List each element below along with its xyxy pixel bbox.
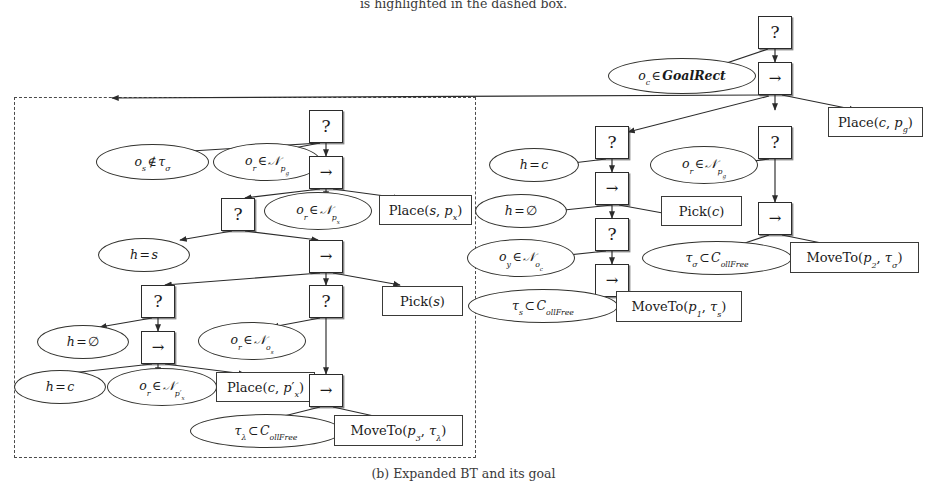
sequence-right-c-label: → [606,273,619,288]
node-condition-or-in-nos[interactable]: or∈𝒩os [198,322,306,360]
condition-goalrect-label: oc∈GoalRect [638,70,726,83]
sequence-right-b-label: → [769,211,782,226]
fallback-left-c-label: ? [321,293,330,310]
condition-or-in-npx-prime-label: or∈𝒩p′x [139,380,184,394]
node-sequence-left-b[interactable]: → [309,240,343,273]
node-sequence-left-d[interactable]: → [309,374,343,407]
condition-h-equals-c-left-label: h=c [46,381,75,394]
condition-os-notin-tau-sigma-label: os∉τσ [135,156,171,169]
fallback-right-inner-left-label: ? [607,134,616,151]
node-condition-tau-lambda-collfree[interactable]: τλ⊂CollFree [190,414,342,448]
node-condition-or-in-npx[interactable]: or∈𝒩px [264,192,372,230]
condition-or-in-npx-label: or∈𝒩px [296,204,340,218]
node-action-place-s-px[interactable]: Place(s, px) [379,195,472,225]
node-fallback-left-b[interactable]: ? [141,285,175,318]
node-condition-h-equals-c-left[interactable]: h=c [14,370,106,404]
fallback-left-top-label: ? [321,118,330,135]
condition-h-empty-left-label: h=∅ [67,336,100,349]
node-action-moveto-p2[interactable]: MoveTo(p2, τσ) [790,242,919,273]
fallback-right-deep-label: ? [607,226,616,243]
node-action-pick-s[interactable]: Pick(s) [382,286,463,316]
root-fallback-label: ? [770,24,779,41]
node-sequence-left-top[interactable]: → [309,156,343,189]
node-condition-tau-sigma-collfree[interactable]: τσ⊂CollFree [642,241,792,275]
node-condition-os-notin-tau-sigma[interactable]: os∉τσ [96,144,209,180]
condition-h-equals-c-right-label: h=c [520,159,549,172]
condition-h-equals-s-label: h=s [130,249,158,262]
sequence-top-right-label: → [769,71,782,86]
node-condition-tau-s-collfree[interactable]: τs⊂CollFree [468,289,618,323]
figure-caption-bottom: (b) Expanded BT and its goal [0,466,927,481]
sequence-left-top-label: → [320,165,333,180]
condition-tau-lambda-collfree-label: τλ⊂CollFree [235,425,298,438]
node-fallback-right-inner-left[interactable]: ? [595,126,629,159]
condition-oy-in-noc-label: oy∈𝒩oc [499,251,543,265]
node-condition-oy-in-noc[interactable]: oy∈𝒩oc [467,239,575,277]
action-place-s-px-label: Place(s, px) [389,204,463,217]
sequence-left-b-label: → [320,249,333,264]
fallback-left-a-label: ? [233,206,242,223]
action-pick-c-label: Pick(c) [679,205,725,218]
node-fallback-right-deep[interactable]: ? [595,218,629,251]
node-fallback-left-a[interactable]: ? [221,198,255,231]
action-pick-s-label: Pick(s) [400,295,445,308]
action-place-c-px-prime-label: Place(c, p′x) [227,381,304,394]
condition-or-in-npg-right-label: or∈𝒩pg [682,158,726,172]
node-condition-or-in-npg-right[interactable]: or∈𝒩pg [650,146,758,184]
node-action-moveto-p1[interactable]: MoveTo(p1, τs) [616,291,742,322]
node-condition-h-equals-s[interactable]: h=s [98,238,190,272]
fallback-left-b-label: ? [153,293,162,310]
node-fallback-left-c[interactable]: ? [309,285,343,318]
action-moveto-p3-label: MoveTo(p3, τλ) [351,424,447,437]
node-sequence-top-right[interactable]: → [758,62,792,95]
fallback-right-inner-right-label: ? [770,134,779,151]
node-condition-h-empty-left[interactable]: h=∅ [37,325,129,359]
node-action-place-c-px-prime[interactable]: Place(c, p′x) [216,372,315,402]
node-condition-h-empty-right[interactable]: h=∅ [475,194,567,228]
sequence-left-d-label: → [320,383,333,398]
action-moveto-p2-label: MoveTo(p2, τσ) [806,251,902,264]
node-root-fallback[interactable]: ? [758,16,792,49]
condition-tau-s-collfree-label: τs⊂CollFree [512,300,574,313]
node-condition-or-in-npg-left[interactable]: or∈𝒩pg [213,143,321,181]
sequence-right-a-label: → [606,181,619,196]
node-condition-goalrect[interactable]: oc∈GoalRect [608,58,756,94]
node-action-place-c-pg[interactable]: Place(c, pg) [828,107,923,137]
node-condition-or-in-npx-prime[interactable]: or∈𝒩p′x [107,368,217,406]
action-place-c-pg-label: Place(c, pg) [838,116,913,129]
node-fallback-left-top[interactable]: ? [309,110,343,143]
condition-or-in-npg-left-label: or∈𝒩pg [245,155,289,169]
condition-h-empty-right-label: h=∅ [505,205,538,218]
condition-or-in-nos-label: or∈𝒩os [230,334,273,348]
sequence-left-c-label: → [152,340,165,355]
node-fallback-right-inner-right[interactable]: ? [758,126,792,159]
node-action-pick-c[interactable]: Pick(c) [661,196,742,226]
node-condition-h-equals-c-right[interactable]: h=c [489,148,579,182]
action-moveto-p1-label: MoveTo(p1, τs) [632,300,727,313]
condition-tau-sigma-collfree-label: τσ⊂CollFree [685,252,748,265]
node-sequence-right-a[interactable]: → [595,172,629,205]
figure-caption-top: is highlighted in the dashed box. [0,0,927,11]
node-sequence-left-c[interactable]: → [141,331,175,364]
node-sequence-right-b[interactable]: → [758,202,792,235]
node-action-moveto-p3[interactable]: MoveTo(p3, τλ) [334,415,463,446]
